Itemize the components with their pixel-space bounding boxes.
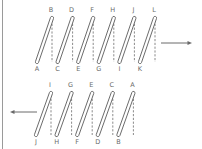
top-coil-bottom-label: K: [138, 65, 143, 73]
top-coil-top-label: L: [152, 6, 156, 14]
top-coil-bottom-label: G: [96, 65, 101, 73]
bottom-coil-bottom-label: D: [95, 138, 100, 146]
top-coil-top-label: D: [69, 6, 74, 14]
top-coil-bottom-label: A: [35, 65, 40, 73]
top-coil-bottom-label: I: [118, 65, 120, 73]
bottom-coil-top-label: I: [49, 81, 51, 89]
bottom-coil-bottom-label: F: [75, 138, 79, 146]
top-coil-turn: [35, 16, 53, 63]
bottom-coil-turn: [117, 91, 135, 136]
top-coil-turn: [118, 16, 136, 63]
top-coil-turn: [77, 16, 95, 63]
bottom-coil: IJGHEFCDAB: [34, 81, 135, 146]
top-coil-top-label: B: [49, 6, 53, 14]
top-coil-top-label: J: [131, 6, 134, 14]
top-coil-bottom-label: C: [55, 65, 60, 73]
arrow-left: [10, 110, 37, 114]
bottom-coil-top-label: A: [130, 81, 135, 89]
top-coil-turn: [56, 16, 74, 63]
bottom-coil-bottom-label: H: [54, 138, 59, 146]
bottom-coil-turn: [76, 91, 94, 136]
arrow-right-head: [188, 41, 193, 45]
arrow-left-head: [10, 110, 15, 114]
bottom-coil-bottom-label: J: [34, 138, 37, 146]
bottom-coil-turn: [34, 91, 52, 136]
bottom-coil-turn: [55, 91, 73, 136]
top-coil-bottom-label: E: [76, 65, 80, 73]
top-coil-turn: [138, 16, 156, 63]
coil-diagram: BADCFEHGJILK IJGHEFCDAB: [0, 0, 202, 149]
bottom-coil-turn: [96, 91, 114, 136]
top-coil-turn: [97, 16, 115, 63]
bottom-coil-top-label: E: [89, 81, 93, 89]
bottom-coil-top-label: C: [110, 81, 115, 89]
bottom-coil-bottom-label: B: [116, 138, 120, 146]
top-coil: BADCFEHGJILK: [35, 6, 157, 73]
arrow-right: [161, 41, 192, 45]
top-coil-top-label: F: [90, 6, 94, 14]
top-coil-top-label: H: [110, 6, 115, 14]
bottom-coil-top-label: G: [68, 81, 73, 89]
